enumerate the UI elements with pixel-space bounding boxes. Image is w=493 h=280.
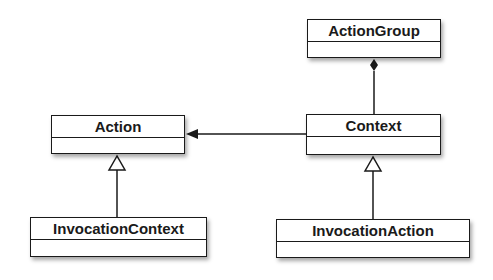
class-context[interactable]: Context (306, 114, 441, 155)
class-name: InvocationAction (277, 220, 469, 242)
class-name: ActionGroup (308, 20, 440, 42)
generalization-triangle-icon (365, 157, 381, 171)
composition-diamond-icon (370, 59, 378, 71)
class-invocation-action[interactable]: InvocationAction (276, 219, 470, 258)
class-name: Action (52, 116, 184, 138)
generalization-triangle-icon (109, 156, 125, 170)
class-name: Context (307, 115, 440, 137)
class-action-group[interactable]: ActionGroup (307, 19, 441, 58)
arrowhead-icon (186, 129, 198, 139)
class-invocation-context[interactable]: InvocationContext (30, 217, 207, 257)
class-action[interactable]: Action (51, 115, 185, 154)
class-name: InvocationContext (31, 218, 206, 240)
